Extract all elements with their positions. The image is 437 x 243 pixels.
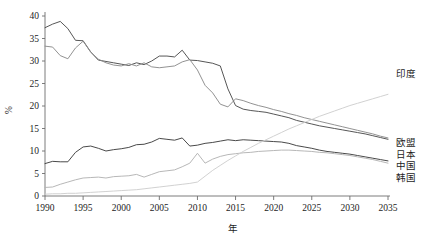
series-label-韩国: 韩国 — [396, 172, 416, 183]
x-tick-label: 2020 — [264, 203, 283, 213]
y-tick-label: 10 — [30, 146, 40, 156]
series-labels: 印度欧盟日本中国韩国 — [396, 68, 416, 183]
series-label-中国: 中国 — [396, 160, 416, 171]
series-line-韩国 — [45, 150, 388, 187]
series-label-欧盟: 欧盟 — [396, 137, 416, 148]
x-tick-label: 1990 — [36, 203, 55, 213]
series-label-印度: 印度 — [396, 68, 416, 79]
x-tick-label: 2005 — [150, 203, 169, 213]
series-line-日本 — [45, 41, 388, 138]
x-tick-label: 2010 — [188, 203, 207, 213]
series-lines — [45, 21, 388, 194]
y-tick-label: 5 — [34, 169, 39, 179]
x-tick-label: 2025 — [302, 203, 321, 213]
x-tick-label: 2035 — [379, 203, 398, 213]
series-line-欧盟 — [45, 21, 388, 139]
y-axis-title: % — [4, 106, 14, 114]
axes: 0510152025303540199019952000200520102015… — [30, 11, 398, 213]
series-line-印度 — [45, 94, 388, 194]
x-tick-label: 2030 — [340, 203, 359, 213]
y-tick-label: 30 — [30, 56, 40, 66]
series-label-日本: 日本 — [396, 149, 416, 160]
y-tick-label: 40 — [30, 11, 40, 21]
x-tick-label: 1995 — [74, 203, 93, 213]
y-tick-label: 25 — [30, 79, 40, 89]
line-chart: 0510152025303540199019952000200520102015… — [0, 0, 437, 243]
y-tick-label: 20 — [30, 101, 40, 111]
y-tick-label: 15 — [30, 124, 40, 134]
y-tick-label: 35 — [30, 34, 40, 44]
x-tick-label: 2000 — [112, 203, 131, 213]
x-tick-label: 2015 — [226, 203, 245, 213]
series-line-中国 — [45, 138, 388, 164]
x-axis-title: 年 — [228, 223, 238, 234]
y-tick-label: 0 — [34, 191, 39, 201]
chart-canvas: 0510152025303540199019952000200520102015… — [0, 0, 437, 243]
